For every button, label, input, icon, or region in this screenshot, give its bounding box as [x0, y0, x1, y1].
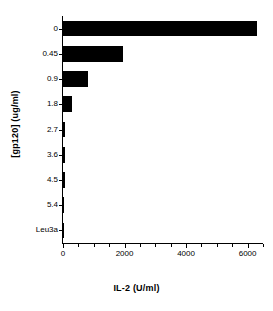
y-tick-label: 0 [54, 25, 58, 33]
x-minor-tick [109, 244, 110, 247]
x-minor-tick [171, 244, 172, 247]
bar [63, 21, 257, 37]
x-minor-tick [263, 244, 264, 247]
x-minor-tick [201, 244, 202, 247]
y-tick-mark [59, 79, 63, 80]
bar [63, 46, 123, 62]
y-tick-mark [59, 54, 63, 55]
x-tick-label: 4000 [177, 250, 195, 258]
x-minor-tick [217, 244, 218, 247]
bar-chart-figure: [gp120] (ug/ml) 00.450.91.82.73.64.55.4L… [0, 0, 273, 311]
x-minor-tick [155, 244, 156, 247]
bar [63, 96, 72, 112]
y-tick-label: 4.5 [47, 176, 58, 184]
y-tick-mark [59, 205, 63, 206]
x-major-tick [248, 244, 249, 248]
y-tick-mark [59, 29, 63, 30]
x-minor-tick [140, 244, 141, 247]
y-tick-label: 2.7 [47, 126, 58, 134]
y-tick-label: 5.4 [47, 201, 58, 209]
y-tick-mark [59, 180, 63, 181]
x-minor-tick [78, 244, 79, 247]
x-minor-tick [94, 244, 95, 247]
x-major-tick [125, 244, 126, 248]
y-tick-label: 1.8 [47, 100, 58, 108]
x-minor-tick [232, 244, 233, 247]
y-tick-label: 0.45 [42, 50, 58, 58]
bar [63, 197, 64, 213]
y-tick-label: Leu3a [36, 226, 58, 234]
bar [63, 223, 64, 239]
plot-area: 0200040006000 [63, 16, 263, 243]
x-axis-title: IL-2 (U/ml) [0, 283, 273, 293]
x-major-tick [186, 244, 187, 248]
bar [63, 172, 65, 188]
x-tick-label: 6000 [239, 250, 257, 258]
bar [63, 122, 65, 138]
bar [63, 71, 88, 87]
x-tick-label: 2000 [116, 250, 134, 258]
y-tick-label: 3.6 [47, 151, 58, 159]
y-tick-mark [59, 155, 63, 156]
x-tick-label: 0 [61, 250, 65, 258]
y-tick-mark [59, 130, 63, 131]
x-major-tick [63, 244, 64, 248]
y-tick-mark [59, 104, 63, 105]
y-tick-mark [59, 230, 63, 231]
y-axis-title: [gp120] (ug/ml) [10, 90, 20, 158]
y-tick-label: 0.9 [47, 75, 58, 83]
bar [63, 147, 65, 163]
y-axis-tick-labels: 00.450.91.82.73.64.55.4Leu3a [24, 16, 61, 243]
